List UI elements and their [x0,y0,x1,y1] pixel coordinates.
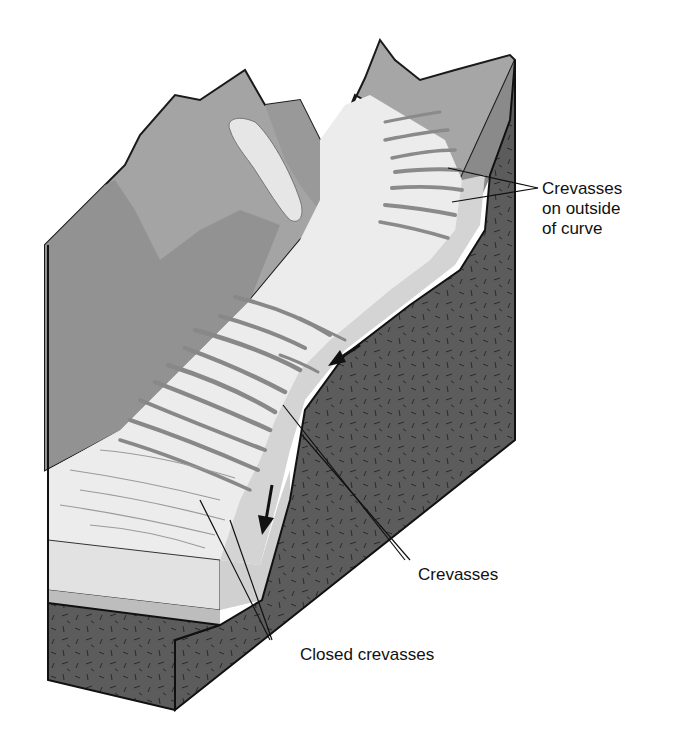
label-crevasses: Crevasses [418,565,498,585]
glacier-diagram: Crevasses on outside of curve Crevasses … [0,0,693,742]
label-line: on outside [542,199,622,219]
diagram-artwork [0,0,693,742]
label-line: of curve [542,219,622,239]
label-line: Crevasses [542,179,622,199]
label-crevasses-outside-curve: Crevasses on outside of curve [542,179,622,239]
label-closed-crevasses: Closed crevasses [300,645,434,665]
